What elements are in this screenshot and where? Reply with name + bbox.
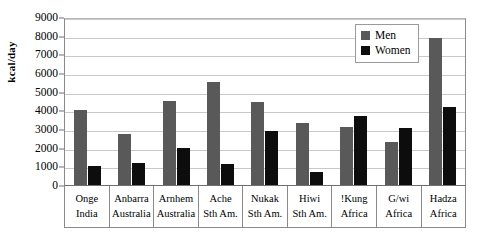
category-label: AnbarraAustralia bbox=[110, 186, 155, 227]
bar-group bbox=[65, 19, 109, 185]
y-tick-label: 0 bbox=[52, 180, 58, 192]
legend-label: Men bbox=[375, 30, 396, 42]
category-name: Hadza bbox=[430, 192, 457, 206]
category-region: Sth Am. bbox=[248, 207, 282, 221]
category-name: Arnhem bbox=[159, 192, 193, 206]
bar-group bbox=[287, 19, 331, 185]
bar-group bbox=[421, 19, 465, 185]
bar-group bbox=[198, 19, 242, 185]
category-label: ArnhemAustralia bbox=[154, 186, 199, 227]
category-axis-labels: OngeIndiaAnbarraAustraliaArnhemAustralia… bbox=[64, 186, 466, 228]
bar-group bbox=[109, 19, 153, 185]
bar-men bbox=[251, 102, 264, 185]
bar-group bbox=[243, 19, 287, 185]
y-tick-label: 2000 bbox=[35, 143, 58, 155]
y-tick-label: 7000 bbox=[35, 50, 58, 62]
bar-men bbox=[429, 38, 442, 185]
category-region: India bbox=[76, 207, 98, 221]
bar-women bbox=[265, 131, 278, 185]
category-region: Sth Am. bbox=[292, 207, 326, 221]
category-region: Australia bbox=[157, 207, 196, 221]
bar-men bbox=[385, 142, 398, 185]
bar-men bbox=[163, 101, 176, 185]
bar-women bbox=[399, 128, 412, 185]
bar-women bbox=[354, 116, 367, 185]
bar-women bbox=[132, 163, 145, 185]
legend-label: Women bbox=[375, 45, 410, 57]
category-label: NukakSth Am. bbox=[243, 186, 288, 227]
bar-men bbox=[340, 127, 353, 185]
bar-women bbox=[177, 148, 190, 185]
legend-item: Men bbox=[361, 28, 410, 43]
category-label: OngeIndia bbox=[65, 186, 110, 227]
y-tick-label: 6000 bbox=[35, 68, 58, 80]
category-label: G/wiAfrica bbox=[377, 186, 422, 227]
category-region: Africa bbox=[341, 207, 368, 221]
category-name: Nukak bbox=[251, 192, 279, 206]
bar-men bbox=[74, 110, 87, 185]
legend-swatch-men bbox=[361, 31, 370, 40]
category-region: Australia bbox=[112, 207, 151, 221]
legend-item: Women bbox=[361, 43, 410, 58]
bar-women bbox=[443, 107, 456, 185]
bar-group bbox=[154, 19, 198, 185]
category-label: HiwiSth Am. bbox=[288, 186, 333, 227]
category-name: Onge bbox=[75, 192, 98, 206]
chart-figure: kcal/day 9000800070006000500040003000200… bbox=[0, 0, 477, 246]
category-region: Sth Am. bbox=[203, 207, 237, 221]
category-name: !Kung bbox=[341, 192, 368, 206]
bar-men bbox=[207, 82, 220, 185]
bar-men bbox=[118, 134, 131, 185]
category-label: AcheSth Am. bbox=[199, 186, 244, 227]
bar-men bbox=[296, 123, 309, 185]
category-region: Africa bbox=[430, 207, 457, 221]
category-name: Hiwi bbox=[299, 192, 320, 206]
y-axis-title: kcal/day bbox=[5, 7, 17, 117]
legend-swatch-women bbox=[361, 46, 370, 55]
category-name: G/wi bbox=[388, 192, 409, 206]
chart-legend: MenWomen bbox=[355, 24, 419, 63]
y-tick-label: 3000 bbox=[35, 124, 58, 136]
bar-women bbox=[310, 172, 323, 185]
category-region: Africa bbox=[385, 207, 412, 221]
category-label: !KungAfrica bbox=[332, 186, 377, 227]
category-name: Anbarra bbox=[114, 192, 148, 206]
category-name: Ache bbox=[209, 192, 231, 206]
y-tick-label: 1000 bbox=[35, 162, 58, 174]
category-label: HadzaAfrica bbox=[422, 186, 466, 227]
y-tick-label: 9000 bbox=[35, 12, 58, 24]
y-tick-label: 8000 bbox=[35, 31, 58, 43]
y-tick-label: 4000 bbox=[35, 106, 58, 118]
bar-women bbox=[88, 166, 101, 185]
y-axis-tick-labels: 9000800070006000500040003000200010000 bbox=[26, 12, 64, 192]
y-tick-label: 5000 bbox=[35, 87, 58, 99]
bar-women bbox=[221, 164, 234, 185]
